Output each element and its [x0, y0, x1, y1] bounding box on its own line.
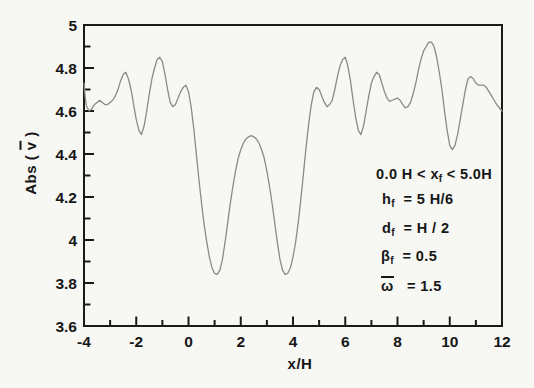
y-axis-title-pre: Abs (: [22, 150, 39, 195]
svg-text:4.6: 4.6: [55, 103, 77, 120]
svg-text:8: 8: [393, 333, 402, 350]
svg-text:4.8: 4.8: [55, 60, 77, 77]
svg-text:5: 5: [68, 17, 77, 34]
svg-text:4.4: 4.4: [55, 146, 77, 163]
svg-text:2: 2: [236, 333, 245, 350]
annotation-df: df = H / 2: [382, 220, 449, 241]
svg-text:0: 0: [184, 333, 193, 350]
svg-text:-4: -4: [77, 333, 91, 350]
annotation-beta-f: βf = 0.5: [381, 248, 437, 269]
v-overbar-symbol: v: [20, 141, 39, 150]
y-axis-title: Abs ( v ): [20, 131, 39, 195]
svg-text:6: 6: [341, 333, 350, 350]
scientific-line-chart-figure: 54.84.64.44.243.83.6-4-2024681012 Abs ( …: [0, 0, 534, 388]
svg-text:3.8: 3.8: [55, 275, 77, 292]
x-axis-title: x/H: [288, 355, 313, 372]
svg-text:-2: -2: [129, 333, 143, 350]
svg-text:10: 10: [441, 333, 458, 350]
annotation-xf-range: 0.0 H < xf < 5.0H: [376, 166, 492, 187]
svg-text:4: 4: [68, 232, 77, 249]
y-axis-title-post: ): [22, 131, 39, 141]
svg-text:4.2: 4.2: [55, 189, 77, 206]
annotation-omega-bar: ω = 1.5: [381, 276, 442, 299]
svg-text:12: 12: [493, 333, 510, 350]
svg-text:3.6: 3.6: [55, 318, 77, 335]
svg-text:4: 4: [289, 333, 298, 350]
annotation-hf: hf = 5 H/6: [382, 191, 453, 212]
line-chart-canvas: 54.84.64.44.243.83.6-4-2024681012: [0, 0, 534, 388]
